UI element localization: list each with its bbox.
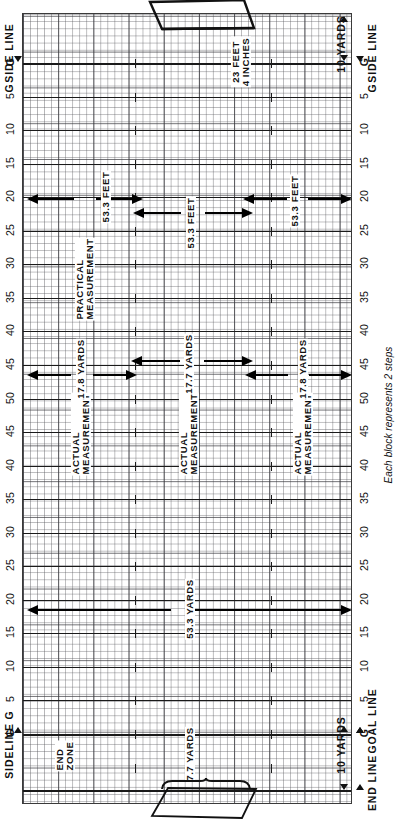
hash-mark-1-15 xyxy=(271,562,272,571)
practical-arrow-3-head-right xyxy=(341,194,352,204)
left-goal-mark-bottom: G xyxy=(3,710,15,719)
yard-label-right-25-15: 25 xyxy=(358,559,370,571)
hash-mark-1-21 xyxy=(271,764,272,773)
actual-value-1: 17.8 YARDS xyxy=(76,338,86,399)
yard-line-35-13 xyxy=(23,499,351,500)
right-goal-mark-top: G xyxy=(366,83,378,92)
hash-mark-0-0 xyxy=(135,59,136,68)
yard-label-right-35-13: 35 xyxy=(358,492,370,504)
yard-label-left-40-8: 40 xyxy=(4,324,16,336)
actual-arrow-1-head-left xyxy=(27,370,38,380)
hash-mark-0-18 xyxy=(135,663,136,672)
actual-arrow-3-head-right xyxy=(341,370,352,380)
hash-mark-1-20 xyxy=(271,730,272,739)
left-goal-mark-top: G xyxy=(3,83,15,92)
yard-label-left-40-12: 40 xyxy=(4,459,16,471)
hash-note-top: 23 FEET4 INCHES xyxy=(231,37,251,88)
hash-mark-0-7 xyxy=(135,294,136,303)
hash-mark-1-2 xyxy=(271,126,272,135)
yard-label-left-5-19: 5 xyxy=(4,696,16,702)
yard-line-30-14 xyxy=(23,533,351,534)
yard-line-10-2 xyxy=(23,130,351,131)
hash-mark-1-10 xyxy=(271,395,272,404)
actual-value-3: 17.8 YARDS xyxy=(298,338,308,399)
yard-label-left-15-3: 15 xyxy=(4,157,16,169)
right-span-top-label: 10 YARDS xyxy=(335,15,347,72)
yard-label-left-25-5: 25 xyxy=(4,224,16,236)
yard-label-right-50-10: 50 xyxy=(358,391,370,403)
practical-value-1: 53.3 FEET xyxy=(101,171,111,224)
yard-label-left-15-17: 15 xyxy=(4,626,16,638)
measurement-brace xyxy=(160,776,252,794)
yard-line-10-18 xyxy=(23,667,351,668)
yard-label-right-25-5: 25 xyxy=(358,224,370,236)
practical-measurement-label: PRACTICAL MEASUREMENT xyxy=(75,237,95,320)
hash-mark-0-19 xyxy=(135,696,136,705)
full-width-arrow-head-left xyxy=(27,605,38,615)
yard-label-left-20-16: 20 xyxy=(4,593,16,605)
yard-line-40-8 xyxy=(23,331,351,332)
hash-mark-0-13 xyxy=(135,495,136,504)
yard-label-right-10-18: 10 xyxy=(358,660,370,672)
yard-line-G-0 xyxy=(23,63,351,65)
hash-mark-1-0 xyxy=(271,59,272,68)
yard-label-left-10-18: 10 xyxy=(4,660,16,672)
yard-line-30-6 xyxy=(23,264,351,265)
actual-measurement-label-1: ACTUAL MEASUREMENT xyxy=(71,392,91,475)
hash-mark-0-1 xyxy=(135,93,136,102)
hash-mark-0-16 xyxy=(135,596,136,605)
right-side-line-label: SIDE LINE xyxy=(366,23,378,82)
full-width-value: 53.3 YARDS xyxy=(185,578,195,639)
goal-tick-left-bottom xyxy=(14,727,22,733)
full-width-arrow-head-right xyxy=(341,605,352,615)
yard-label-right-20-16: 20 xyxy=(358,593,370,605)
right-span-bottom-label: 10 YARDS xyxy=(335,716,347,773)
yard-label-right-30-6: 30 xyxy=(358,257,370,269)
hash-mark-0-12 xyxy=(135,462,136,471)
hash-mark-1-18 xyxy=(271,663,272,672)
full-width-arrow-seg-1 xyxy=(191,609,350,611)
end-zone-label: END ZONE xyxy=(55,741,75,772)
actual-measurement-label-3: ACTUAL MEASUREMENT xyxy=(293,392,313,475)
hash-mark-0-11 xyxy=(135,428,136,437)
practical-value-3: 53.3 FEET xyxy=(290,175,300,228)
yard-line-25-15 xyxy=(23,566,351,567)
actual-arrow-2-head-left xyxy=(131,356,142,366)
hash-mark-0-5 xyxy=(135,227,136,236)
hash-mark-1-9 xyxy=(271,361,272,370)
yard-line-35-7 xyxy=(23,298,351,299)
hash-mark-1-19 xyxy=(271,696,272,705)
yard-label-right-5-19: 5 xyxy=(358,696,370,702)
hash-mark-0-15 xyxy=(135,562,136,571)
yard-label-right-45-11: 45 xyxy=(358,425,370,437)
yard-label-right-30-14: 30 xyxy=(358,526,370,538)
yard-label-left-10-2: 10 xyxy=(4,123,16,135)
goal-tick-left-top xyxy=(14,56,22,62)
practical-arrow-2-head-left xyxy=(133,208,144,218)
hash-mark-1-17 xyxy=(271,629,272,638)
hash-mark-1-11 xyxy=(271,428,272,437)
actual-measurement-label-2: ACTUAL MEASUREMENT xyxy=(179,392,199,475)
hash-mark-1-12 xyxy=(271,462,272,471)
yard-label-left-20-4: 20 xyxy=(4,190,16,202)
goal-post-top xyxy=(148,0,258,32)
hash-mark-0-14 xyxy=(135,529,136,538)
span-tick-bottom-b xyxy=(340,784,348,790)
yard-label-right-20-4: 20 xyxy=(358,190,370,202)
yard-label-right-40-8: 40 xyxy=(358,324,370,336)
yard-label-right-40-12: 40 xyxy=(358,459,370,471)
hash-mark-1-7 xyxy=(271,294,272,303)
hash-mark-1-5 xyxy=(271,227,272,236)
goal-line-tick-right xyxy=(356,727,364,733)
hash-mark-0-2 xyxy=(135,126,136,135)
hash-mark-1-13 xyxy=(271,495,272,504)
hash-mark-0-17 xyxy=(135,629,136,638)
yard-label-right-10-2: 10 xyxy=(358,123,370,135)
hash-mark-1-1 xyxy=(271,93,272,102)
actual-value-2: 17.7 YARDS xyxy=(184,333,194,394)
yard-label-left-35-7: 35 xyxy=(4,291,16,303)
practical-value-2: 53.3 FEET xyxy=(186,197,196,250)
yard-label-left-45-9: 45 xyxy=(4,358,16,370)
actual-arrow-3-head-left xyxy=(245,370,256,380)
yard-label-right-35-7: 35 xyxy=(358,291,370,303)
